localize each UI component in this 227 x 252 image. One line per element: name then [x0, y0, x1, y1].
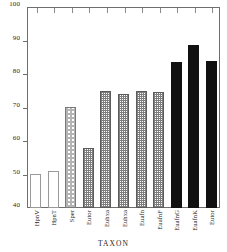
bar	[30, 174, 41, 209]
bar	[153, 92, 164, 208]
x-tick-label: Euhxa	[120, 210, 127, 227]
y-tick-label: 50	[13, 169, 20, 176]
x-tick-label: Eutor	[85, 210, 92, 225]
y-tick-40: 40	[0, 208, 27, 209]
y-tick-label: 100	[9, 1, 20, 8]
bar	[100, 91, 111, 208]
x-tick-label: Euafn	[138, 210, 145, 226]
x-tick-label-slot: Euhxa	[98, 209, 114, 241]
y-tick-50: 50	[0, 175, 27, 176]
x-tick-label: HpnV	[32, 210, 39, 226]
x-tick-label: Sper	[67, 210, 74, 222]
y-tick-label: 40	[13, 202, 20, 209]
bar	[136, 91, 147, 208]
bar	[118, 94, 129, 208]
x-tick-label-slot: EuafnK	[186, 209, 202, 241]
y-tick-label: 80	[13, 68, 20, 75]
y-tick-label: 70	[13, 102, 20, 109]
bar-chart: 100908070605040 HpnVHpnTSperEutorEuhxaEu…	[0, 0, 227, 252]
x-tick-label: HpnT	[50, 210, 57, 226]
x-axis-title: TAXON	[0, 239, 227, 248]
x-tick-label: Eutor	[208, 210, 215, 225]
y-tick-90: 90	[0, 41, 27, 42]
y-tick-80: 80	[0, 74, 27, 75]
x-tick-label: EuafnF	[155, 210, 162, 230]
y-axis: 100908070605040	[0, 0, 27, 215]
bar	[206, 61, 217, 208]
x-tick-label-slot: HpnV	[28, 209, 44, 241]
x-tick-label-slot: Euhxa	[116, 209, 132, 241]
bar	[188, 45, 199, 208]
bar	[83, 148, 94, 208]
x-tick-label-slot: EuafnG	[168, 209, 184, 241]
x-tick-label: EuafnG	[173, 210, 180, 231]
y-tick-70: 70	[0, 108, 27, 109]
bar	[171, 62, 182, 208]
x-tick-label: EuafnK	[190, 210, 197, 231]
y-tick-label: 90	[13, 35, 20, 42]
y-tick-60: 60	[0, 141, 27, 142]
x-tick-label-slot: Euafn	[133, 209, 149, 241]
y-tick-100: 100	[0, 7, 27, 8]
x-tick-label-slot: Sper	[63, 209, 79, 241]
x-tick-label-slot: Eutor	[203, 209, 219, 241]
bars-group	[27, 7, 220, 208]
x-tick-label-slot: EuafnF	[151, 209, 167, 241]
x-tick-label-slot: HpnT	[45, 209, 61, 241]
x-tick-label: Euhxa	[102, 210, 109, 227]
x-tick-label-slot: Eutor	[80, 209, 96, 241]
bar	[65, 107, 76, 209]
y-tick-label: 60	[13, 135, 20, 142]
bar	[48, 171, 59, 208]
x-axis-labels: HpnVHpnTSperEutorEuhxaEuhxaEuafnEuafnFEu…	[27, 209, 220, 241]
